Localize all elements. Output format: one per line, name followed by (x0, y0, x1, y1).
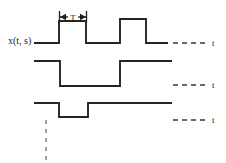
waveform-diagram: T x(t, s) t t t (0, 0, 226, 163)
axis-label-1: t (212, 38, 215, 48)
sample-function-1: t (34, 19, 215, 48)
dimension-right-arrow-icon (80, 14, 86, 21)
signal-label: x(t, s) (8, 35, 31, 47)
sample-function-2: t (34, 61, 215, 90)
axis-label-2: t (212, 80, 215, 90)
axis-label-3: t (212, 115, 215, 125)
sample-function-2-trace (34, 61, 172, 86)
figure-root: T x(t, s) t t t (0, 0, 226, 163)
sample-function-3: t (34, 103, 215, 125)
dimension-left-arrow-icon (60, 14, 66, 21)
sample-function-3-trace (34, 103, 172, 117)
sample-function-1-trace (34, 19, 168, 43)
